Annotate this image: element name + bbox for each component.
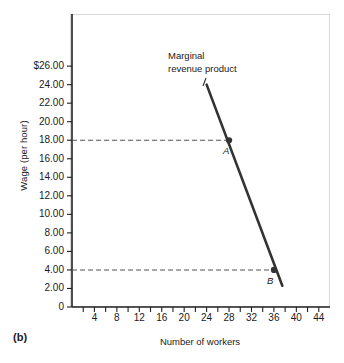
data-point-a bbox=[226, 137, 232, 143]
mrp-line bbox=[207, 85, 283, 286]
x-tick-label: 36 bbox=[262, 313, 286, 323]
point-b-label: B bbox=[267, 276, 273, 286]
y-tick-label: 0 bbox=[6, 302, 64, 312]
y-tick-label: 18.00 bbox=[6, 135, 64, 145]
panel-tag: (b) bbox=[13, 331, 27, 343]
point-a-label: A bbox=[223, 146, 229, 156]
chart-panel: $26.0024.0022.0020.0018.0016.0014.0012.0… bbox=[0, 0, 344, 363]
x-tick-label: 40 bbox=[284, 313, 308, 323]
y-tick-label: 8.00 bbox=[6, 228, 64, 238]
data-point-b bbox=[271, 267, 277, 273]
y-tick-label: 24.00 bbox=[6, 80, 64, 90]
x-tick-label: 12 bbox=[127, 313, 151, 323]
y-tick-label: 16.00 bbox=[6, 154, 64, 164]
y-tick-label: 2.00 bbox=[6, 283, 64, 293]
mrp-annotation-line1: Marginal bbox=[168, 50, 237, 63]
x-tick-label: 20 bbox=[172, 313, 196, 323]
mrp-annotation-line2: revenue product bbox=[168, 63, 237, 76]
y-tick-label: 12.00 bbox=[6, 191, 64, 201]
y-tick-label: 20.00 bbox=[6, 117, 64, 127]
x-tick-label: 4 bbox=[82, 313, 106, 323]
data-series-group bbox=[207, 85, 283, 286]
y-tick-label: $26.00 bbox=[6, 61, 64, 71]
y-tick-label: 4.00 bbox=[6, 265, 64, 275]
x-tick-label: 44 bbox=[307, 313, 331, 323]
x-tick-label: 8 bbox=[105, 313, 129, 323]
y-tick-label: 14.00 bbox=[6, 172, 64, 182]
guide-lines-group bbox=[72, 140, 274, 270]
y-tick-label: 6.00 bbox=[6, 246, 64, 256]
y-tick-label: 22.00 bbox=[6, 98, 64, 108]
x-tick-label: 28 bbox=[217, 313, 241, 323]
x-tick-label: 24 bbox=[195, 313, 219, 323]
y-tick-label: 10.00 bbox=[6, 209, 64, 219]
x-tick-label: 32 bbox=[239, 313, 263, 323]
x-tick-label: 16 bbox=[150, 313, 174, 323]
y-axis-title: Wage (per hour) bbox=[18, 91, 29, 221]
mrp-annotation: Marginal revenue product bbox=[168, 50, 237, 75]
x-axis-title: Number of workers bbox=[70, 336, 330, 347]
